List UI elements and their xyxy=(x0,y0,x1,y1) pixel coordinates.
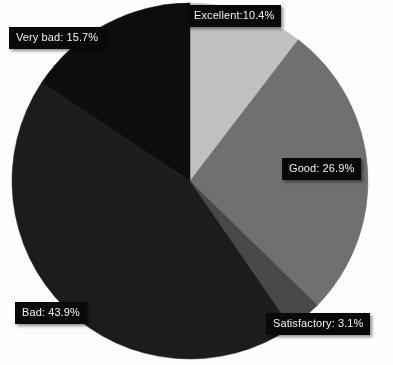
slice-label-good: Good: 26.9% xyxy=(282,158,361,180)
pie-chart: Excellent:10.4% Very bad: 15.7% Good: 26… xyxy=(0,0,393,365)
slice-label-bad: Bad: 43.9% xyxy=(15,302,87,324)
slice-label-very-bad: Very bad: 15.7% xyxy=(9,27,105,49)
slice-label-excellent: Excellent:10.4% xyxy=(187,5,281,27)
slice-label-satisfactory: Satisfactory: 3.1% xyxy=(266,313,370,335)
